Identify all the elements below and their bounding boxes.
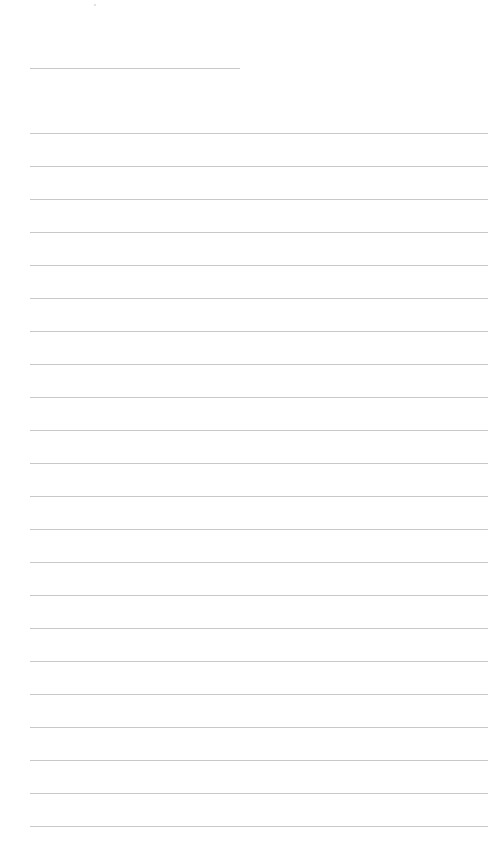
ruled-line (30, 232, 488, 233)
ruled-line (30, 562, 488, 563)
ruled-line (30, 430, 488, 431)
ruled-line (30, 364, 488, 365)
ruled-line (30, 166, 488, 167)
ruled-line (30, 496, 488, 497)
header-rule-line (30, 68, 240, 69)
ruled-line (30, 133, 488, 134)
ruled-line (30, 331, 488, 332)
ruled-line (30, 265, 488, 266)
ruled-line (30, 760, 488, 761)
ruled-line (30, 595, 488, 596)
ruled-line (30, 661, 488, 662)
ruled-line (30, 463, 488, 464)
ruled-line (30, 397, 488, 398)
ruled-line (30, 826, 488, 827)
ruled-line (30, 694, 488, 695)
ruled-line (30, 529, 488, 530)
paper-speck (94, 4, 96, 6)
ruled-line (30, 793, 488, 794)
ruled-line (30, 727, 488, 728)
ruled-line (30, 298, 488, 299)
ruled-line (30, 199, 488, 200)
ruled-line (30, 628, 488, 629)
